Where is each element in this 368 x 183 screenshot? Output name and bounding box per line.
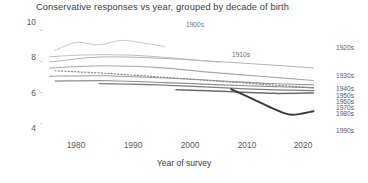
y-axis-tick-label: 10 [14, 17, 36, 27]
series-label-1920s: 1920s [336, 45, 354, 52]
x-axis-tick-label: 2010 [230, 140, 264, 150]
series-label-1930s: 1930s [336, 73, 354, 80]
series-label-1980s: 1980s [336, 111, 354, 118]
x-axis-tick-label: 1980 [59, 140, 93, 150]
series-label-1900s: 1900s [186, 22, 204, 29]
series-line-1910s [50, 55, 221, 62]
x-axis-title: Year of survey [0, 158, 368, 168]
y-axis-tick-label: 4 [14, 123, 36, 133]
y-axis-tick-label: 8 [14, 52, 36, 62]
series-label-1910s: 1910s [232, 52, 250, 59]
x-axis-tick-label: 2000 [173, 140, 207, 150]
line-chart-plot [0, 0, 368, 183]
series-label-1990s: 1990s [336, 128, 354, 135]
series-line-1900s [55, 40, 165, 50]
y-axis-tick-label: 6 [14, 88, 36, 98]
chart-screenshot: Conservative responses vs year, grouped … [0, 0, 368, 183]
x-axis-tick-label: 2020 [286, 140, 320, 150]
x-axis-tick-label: 1990 [116, 140, 150, 150]
